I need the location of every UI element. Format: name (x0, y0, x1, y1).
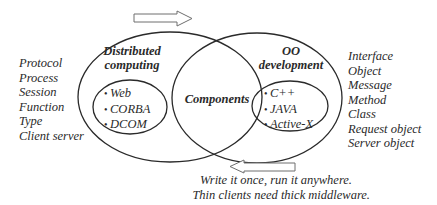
distributed-technologies-list: Web CORBA DCOM (104, 86, 150, 133)
left-arrow-icon (230, 160, 295, 173)
list-item: Web (104, 86, 150, 102)
term: Server object (348, 136, 421, 151)
term: Method (348, 93, 421, 108)
term: Class (348, 107, 421, 122)
list-item: DCOM (104, 117, 150, 133)
oo-technologies-list: C++ JAVA Active-X (264, 86, 313, 133)
term: Protocol (19, 56, 84, 71)
slogan: Thin clients need thick middleware. (120, 188, 370, 203)
term: Message (348, 78, 421, 93)
right-arrow-icon (134, 11, 192, 26)
term: Type (19, 114, 84, 129)
title-line: Distributed (101, 44, 163, 58)
components-label: Components (172, 92, 262, 106)
term: Object (348, 64, 421, 79)
oo-development-title: OO development (256, 44, 326, 72)
term: Process (19, 71, 84, 86)
term: Interface (348, 49, 421, 64)
title-line: OO (256, 44, 326, 58)
distributed-terms-list: Protocol Process Session Function Type C… (19, 56, 84, 143)
list-item: JAVA (264, 102, 313, 118)
list-item: C++ (264, 86, 313, 102)
oo-terms-list: Interface Object Message Method Class Re… (348, 49, 421, 151)
title-line: development (256, 58, 326, 72)
term: Session (19, 85, 84, 100)
list-item: Active-X (264, 117, 313, 133)
slogan: Write it once, run it anywhere. (120, 173, 370, 188)
term: Function (19, 100, 84, 115)
distributed-computing-title: Distributed computing (101, 44, 163, 72)
term: Client server (19, 129, 84, 144)
slogans: Write it once, run it anywhere. Thin cli… (120, 173, 370, 203)
term: Request object (348, 122, 421, 137)
title-line: computing (101, 58, 163, 72)
list-item: CORBA (104, 102, 150, 118)
